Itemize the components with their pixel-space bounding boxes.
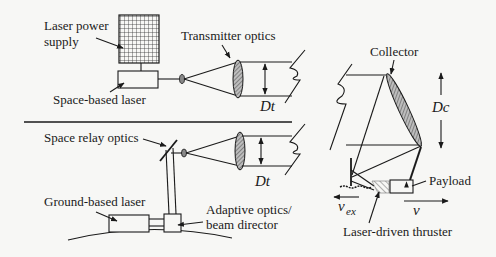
label-dc: Dc — [431, 99, 450, 115]
label-laser-driven-thruster: Laser-driven thruster — [343, 224, 453, 239]
collector-mirror-icon — [383, 72, 426, 149]
label-beam-director: beam director — [206, 217, 278, 232]
space-laser-box — [118, 71, 158, 88]
label-ground-based-laser: Ground-based laser — [44, 194, 146, 209]
label-space-based-laser: Space-based laser — [53, 92, 146, 107]
laser-propulsion-diagram: Laser power supply Space-based laser Tra… — [0, 0, 496, 257]
label-dt-bottom: Dt — [254, 173, 271, 189]
collector-section: Dc Collector Payload v ex v Laser-driven… — [330, 44, 471, 239]
label-laser-power-supply: Laser power — [44, 18, 109, 33]
label-vex-subscript: ex — [346, 205, 356, 217]
label-v: v — [413, 202, 420, 218]
laser-thruster-icon — [372, 181, 389, 193]
label-dt-top: Dt — [259, 98, 276, 114]
label-vex: v — [338, 198, 345, 214]
break-mark-2 — [285, 124, 305, 175]
adaptive-optics-box — [164, 214, 181, 232]
space-based-laser-section: Laser power supply Space-based laser Tra… — [44, 15, 305, 114]
ground-based-laser-section: Space relay optics Ground-based laser Ad… — [44, 124, 305, 240]
small-lens-icon-2 — [182, 149, 187, 157]
relay-mirror-icon — [160, 140, 177, 161]
label-transmitter-optics: Transmitter optics — [181, 28, 276, 43]
break-mark-3 — [330, 64, 352, 150]
transmitter-lens-icon — [233, 60, 243, 98]
label-collector: Collector — [370, 44, 419, 59]
small-lens-icon — [180, 75, 185, 84]
ground-laser-box — [109, 215, 149, 232]
label-supply: supply — [44, 34, 79, 49]
power-supply-grid-icon — [119, 15, 159, 63]
label-space-relay-optics: Space relay optics — [44, 130, 139, 145]
transmitter-lens-icon-2 — [235, 132, 245, 170]
label-adaptive-optics: Adaptive optics/ — [206, 202, 292, 217]
payload-box — [390, 180, 413, 193]
break-mark — [285, 50, 305, 103]
label-payload: Payload — [429, 173, 471, 188]
